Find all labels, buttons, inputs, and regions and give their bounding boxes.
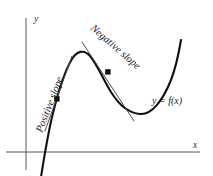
x-axis-label: x: [192, 140, 198, 150]
derivative-slope-figure: y x y = f(x) Positive slope Negative slo…: [0, 0, 213, 176]
function-curve: [41, 40, 181, 176]
function-label: y = f(x): [151, 95, 183, 107]
figure-canvas: y x y = f(x) Positive slope Negative slo…: [0, 0, 213, 176]
y-axis-label: y: [33, 14, 39, 24]
negative-slope-point-marker: [105, 69, 110, 74]
